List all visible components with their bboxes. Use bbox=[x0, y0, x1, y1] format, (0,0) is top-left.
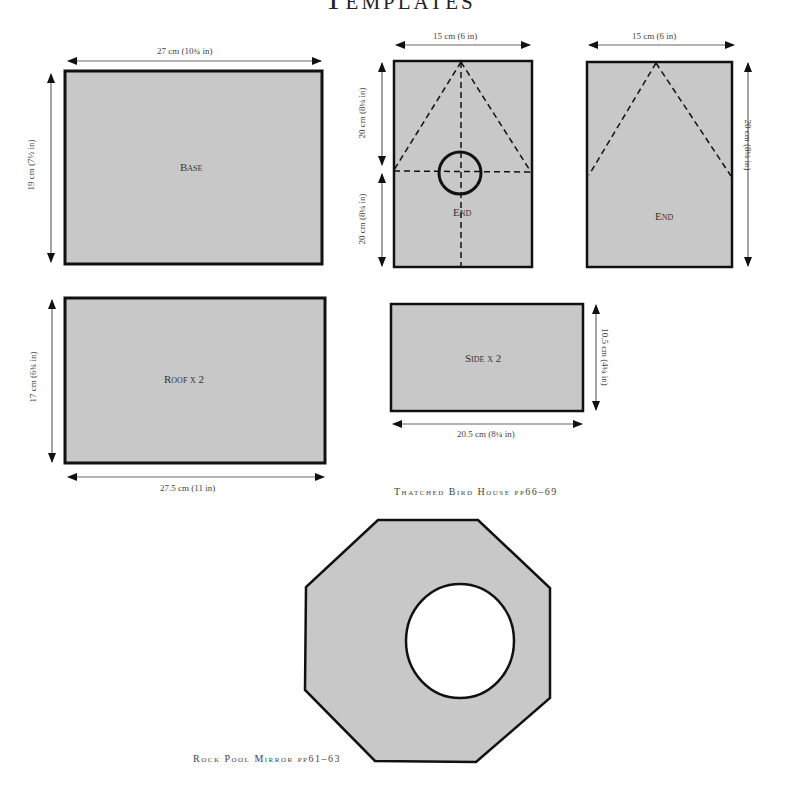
side-height-label: 10.5 cm (4¼ in) bbox=[600, 328, 610, 386]
base-piece-label: Base bbox=[180, 161, 202, 173]
end2-height-label: 20 cm (8¼ in) bbox=[743, 120, 753, 171]
side-width-label: 20.5 cm (8¼ in) bbox=[457, 429, 515, 439]
roof-height-label: 17 cm (6¾ in) bbox=[28, 352, 38, 403]
bird-house-caption: Thatched Bird House pp66–69 bbox=[394, 486, 558, 497]
roof-width-label: 27.5 cm (11 in) bbox=[160, 483, 215, 493]
templates-diagram bbox=[0, 0, 800, 801]
mirror-caption: Rock Pool Mirror pp61–63 bbox=[193, 753, 341, 764]
mirror-template bbox=[305, 520, 550, 762]
end1-height-top-label: 20 cm (8¼ in) bbox=[357, 88, 367, 139]
end2-width-label: 15 cm (6 in) bbox=[632, 31, 676, 41]
end1-height-bottom-label: 20 cm (8¼ in) bbox=[357, 194, 367, 245]
end-with-hole-template bbox=[382, 45, 532, 267]
side-piece-label: Side x 2 bbox=[465, 352, 501, 364]
end1-width-label: 15 cm (6 in) bbox=[433, 31, 477, 41]
side-template bbox=[391, 304, 596, 424]
roof-piece-label: Roof x 2 bbox=[164, 373, 204, 385]
end2-piece-label: End bbox=[655, 210, 673, 222]
base-height-label: 19 cm (7½ in) bbox=[26, 140, 36, 191]
end-plain-template bbox=[587, 45, 748, 267]
roof-template bbox=[52, 298, 325, 477]
end1-piece-label: End bbox=[453, 206, 471, 218]
base-width-label: 27 cm (10¾ in) bbox=[157, 46, 213, 56]
